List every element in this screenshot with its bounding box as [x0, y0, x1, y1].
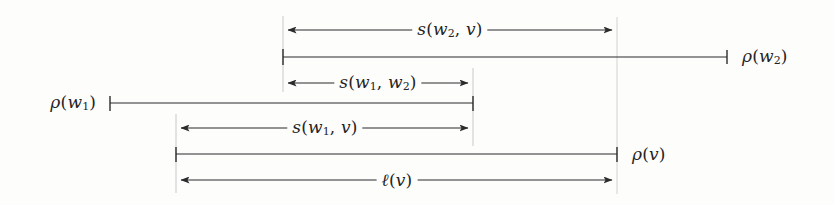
label-s-w1-w2: s(w1, w2) — [334, 74, 421, 93]
label-rho-w2: ρ(w2) — [737, 48, 793, 67]
measure-segment-rho-w1 — [110, 96, 473, 111]
interval-diagram: s(w2, v) ρ(w2) s(w1, w2) ρ(w1) s(w1, v) … — [0, 0, 834, 205]
label-s-w2-v: s(w2, v) — [412, 21, 487, 40]
guide-lines — [176, 16, 617, 194]
measure-segment-rho-w2 — [283, 49, 727, 65]
label-s-w1-v: s(w1, v) — [287, 119, 362, 138]
label-rho-v: ρ(v) — [627, 146, 671, 163]
label-rho-w1: ρ(w1) — [45, 94, 101, 113]
measure-segment-rho-v — [176, 147, 617, 162]
label-ell-v: ℓ(v) — [377, 172, 418, 189]
